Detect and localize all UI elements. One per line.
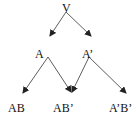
node-ab-prime: AB’	[53, 102, 74, 114]
node-a-prime: A’	[82, 48, 93, 60]
edge-a-prime-to-a-prime-b-prime	[89, 57, 126, 93]
node-ab: AB	[8, 102, 25, 114]
edge-a-to-ab	[23, 57, 48, 93]
edge-a-to-ab-prime	[48, 57, 71, 92]
node-v: V	[62, 2, 71, 14]
edge-v-to-a	[50, 12, 66, 36]
edge-a-prime-to-ab-prime	[72, 57, 89, 92]
diagram-canvas: V A A’ AB AB’ A’B’	[0, 0, 136, 122]
node-a-prime-b-prime: A’B’	[109, 102, 132, 114]
node-a: A	[35, 48, 44, 60]
edge-v-to-a-prime	[66, 12, 91, 36]
